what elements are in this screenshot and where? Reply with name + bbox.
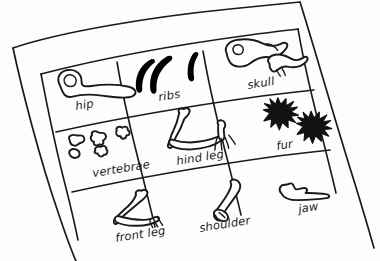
cell-skull-label: skull (246, 74, 276, 92)
vertebrae-icon (67, 125, 133, 160)
cell-ribs: ribs (132, 52, 203, 104)
cell-shoulder-label: shoulder (198, 213, 252, 235)
bone-chart-drawing: hip ribs skull (0, 0, 380, 261)
cell-front-leg: front leg (110, 188, 167, 245)
cell-hip: hip (57, 61, 136, 113)
cell-hip-label: hip (74, 96, 94, 113)
cell-front-leg-label: front leg (114, 223, 166, 245)
drawing-canvas: hip ribs skull (0, 0, 380, 261)
cell-jaw-label: jaw (295, 199, 320, 216)
cell-hind-leg: hind leg (163, 102, 236, 168)
cell-skull: skull (225, 31, 310, 92)
cell-jaw: jaw (279, 178, 329, 216)
cell-shoulder: shoulder (198, 179, 252, 235)
cell-fur: fur (261, 91, 333, 153)
cell-fur-label: fur (275, 136, 295, 153)
grid-col-right (298, 29, 336, 193)
cell-ribs-label: ribs (157, 87, 181, 104)
cell-vertebrae: vertebrae (67, 125, 151, 180)
